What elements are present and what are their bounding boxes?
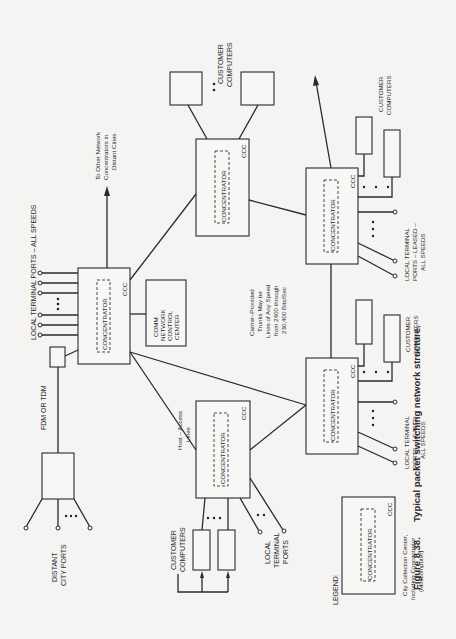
legend-box: CONCENTRATOR CCC	[342, 497, 395, 594]
svg-text:CUSTOMER: CUSTOMER	[217, 44, 224, 84]
svg-text:LEGEND:: LEGEND:	[332, 574, 339, 605]
svg-text:230,400 Bits/Sec: 230,400 Bits/Sec	[280, 287, 287, 334]
trunk-main-top	[130, 194, 196, 280]
svg-text:CCC: CCC	[349, 174, 356, 188]
svg-text:COMPUTERS: COMPUTERS	[179, 527, 186, 572]
svg-text:Lines: Lines	[184, 427, 191, 442]
svg-text:CCC: CCC	[349, 364, 356, 378]
svg-text:from 2400 through: from 2400 through	[272, 285, 279, 336]
local-terminal-ports-all-speeds-label: LOCAL TERMINAL PORTS – ALL SPEEDS	[30, 204, 37, 340]
svg-text:Distant Cities: Distant Cities	[110, 134, 117, 170]
svg-text:FDM OR TDM: FDM OR TDM	[40, 385, 47, 430]
svg-text:Including Concentrator: Including Concentrator	[409, 538, 416, 600]
svg-text:LOCAL: LOCAL	[264, 541, 271, 564]
carrier-note: Carrier–Provided Trunks May be Lines of …	[248, 284, 287, 338]
svg-text:Lines of Any Speed: Lines of Any Speed	[264, 284, 271, 338]
svg-text:PORTS – LEASED –: PORTS – LEASED –	[411, 411, 418, 469]
svg-text:LOCAL TERMINAL PORTS – ALL SPE: LOCAL TERMINAL PORTS – ALL SPEEDS	[30, 204, 37, 340]
customer-computers-bottom-label: CUSTOMER COMPUTERS	[170, 527, 186, 572]
svg-text:COMPUTERS: COMPUTERS	[226, 42, 233, 87]
svg-text:Concentrators in: Concentrators in	[102, 134, 109, 180]
leased-ports-right-label: LOCAL TERMINAL PORTS – LEASED – ALL SPEE…	[403, 223, 426, 281]
distant-city-mux	[24, 453, 92, 530]
legend-title: LEGEND:	[332, 574, 339, 605]
svg-text:(Minicomputer): (Minicomputer)	[417, 551, 424, 592]
ccc-mid: CONCENTRATOR CCC	[306, 358, 358, 454]
ccc-right: CONCENTRATOR CCC	[306, 168, 358, 264]
svg-text:CUSTOMER: CUSTOMER	[377, 76, 384, 112]
packet-switching-diagram: Figure 8.38. Typical packet switching ne…	[0, 0, 456, 639]
concentrator-label: CONCENTRATOR	[101, 298, 108, 350]
mid-leased-ports	[358, 400, 397, 465]
svg-text:CUSTOMER: CUSTOMER	[404, 316, 411, 352]
customer-computers-mid-label: CUSTOMER COMPUTERS	[404, 315, 419, 355]
customer-computers-top-label: CUSTOMER COMPUTERS	[217, 42, 233, 87]
svg-text:CCC: CCC	[386, 502, 393, 516]
svg-text:ALL SPEEDS: ALL SPEEDS	[419, 233, 426, 271]
svg-text:CUSTOMER: CUSTOMER	[170, 530, 177, 570]
svg-text:Carrier–Provided: Carrier–Provided	[248, 289, 255, 336]
leased-ports-mid-label: LOCAL TERMINAL PORTS – LEASED – ALL SPEE…	[403, 411, 426, 469]
right-leased-ports	[358, 210, 397, 278]
mid-customer-computers	[356, 300, 400, 381]
host-access-lines-label: Host – Access Lines	[176, 411, 191, 450]
ccc-label: CCC	[121, 282, 128, 296]
trunk-top-right	[249, 200, 306, 215]
svg-text:COMPUTERS: COMPUTERS	[385, 75, 392, 115]
svg-text:CONCENTRATOR: CONCENTRATOR	[329, 199, 336, 251]
right-customer-computers	[356, 117, 400, 197]
fdm-or-tdm-label: FDM OR TDM	[40, 385, 47, 430]
svg-text:PORTS: PORTS	[282, 540, 289, 564]
svg-text:To Other Network: To Other Network	[94, 131, 101, 180]
main-local-ports	[38, 271, 78, 337]
svg-text:TERMINAL: TERMINAL	[273, 533, 280, 569]
svg-text:NETWORK: NETWORK	[159, 309, 166, 341]
svg-text:City Collection Center,: City Collection Center,	[401, 535, 408, 596]
ccc-main: CONCENTRATOR CCC	[78, 268, 130, 364]
to-other-cities-arrow	[104, 186, 110, 268]
svg-text:CITY PORTS: CITY PORTS	[60, 544, 67, 586]
svg-text:CONCENTRATOR: CONCENTRATOR	[219, 432, 226, 484]
svg-text:DISTANT: DISTANT	[51, 552, 58, 582]
distant-city-ports-label: DISTANT CITY PORTS	[51, 544, 67, 586]
trunk-main-mid	[130, 352, 306, 405]
local-terminal-ports-label: LOCAL TERMINAL PORTS	[264, 533, 289, 569]
ccc-top: CONCENTRATOR CCC	[196, 139, 249, 236]
to-other-network-label: To Other Network Concentrators in Distan…	[94, 131, 117, 180]
svg-text:CCC: CCC	[240, 144, 247, 158]
svg-text:CONCENTRATOR: CONCENTRATOR	[220, 170, 227, 222]
comm-network-control-center: COMM NETWORK CONTROL CENTER	[130, 280, 186, 346]
svg-text:CONCENTRATOR: CONCENTRATOR	[366, 528, 373, 580]
svg-text:COMPUTERS: COMPUTERS	[412, 315, 419, 355]
right-arrow-out	[313, 75, 331, 168]
svg-text:Trunks May be: Trunks May be	[256, 291, 263, 332]
svg-text:CCC: CCC	[240, 406, 247, 420]
fdm-multiplexer	[50, 347, 78, 453]
trunk-host-mid	[250, 405, 306, 450]
svg-text:COMM: COMM	[152, 317, 159, 337]
svg-text:PORTS – LEASED –: PORTS – LEASED –	[411, 223, 418, 281]
svg-text:Host – Access: Host – Access	[176, 411, 183, 450]
svg-text:CENTER: CENTER	[173, 314, 180, 340]
svg-text:CONTROL: CONTROL	[166, 310, 173, 341]
svg-text:LOCAL TERMINAL: LOCAL TERMINAL	[403, 227, 410, 281]
ccc-host: CONCENTRATOR CCC	[196, 401, 250, 498]
host-customer-computers	[178, 498, 235, 592]
svg-text:CONCENTRATOR: CONCENTRATOR	[329, 389, 336, 441]
svg-text:ALL SPEEDS: ALL SPEEDS	[419, 421, 426, 459]
svg-text:LOCAL TERMINAL: LOCAL TERMINAL	[403, 415, 410, 469]
customer-computers-right-label: CUSTOMER COMPUTERS	[377, 75, 392, 115]
